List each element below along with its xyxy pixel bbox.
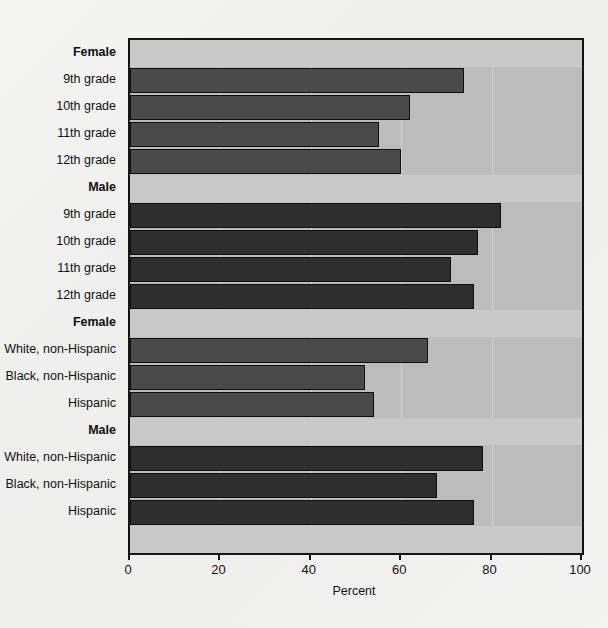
- bar-row: [130, 499, 582, 526]
- bar: [130, 257, 451, 282]
- bar: [130, 68, 464, 93]
- x-tick-60: [399, 553, 401, 560]
- bar: [130, 338, 428, 363]
- bar: [130, 365, 365, 390]
- y-axis-labels: Female9th grade10th grade11th grade12th …: [0, 38, 122, 551]
- y-axis-category-label: 11th grade: [57, 262, 116, 275]
- bar-row: [130, 337, 582, 364]
- x-tick-label-80: 80: [482, 562, 496, 577]
- bar-row: [130, 148, 582, 175]
- bar: [130, 230, 478, 255]
- y-axis-category-label: Black, non-Hispanic: [6, 370, 116, 383]
- y-axis-category-label: Black, non-Hispanic: [6, 478, 116, 491]
- bar: [130, 500, 474, 525]
- bar-row: [130, 256, 582, 283]
- x-tick-label-60: 60: [392, 562, 406, 577]
- y-axis-group-label: Male: [88, 424, 116, 437]
- x-tick-100: [580, 553, 582, 560]
- bar-row: [130, 229, 582, 256]
- bar: [130, 149, 401, 174]
- x-axis-title: Percent: [128, 584, 580, 598]
- bar-row: [130, 67, 582, 94]
- bar-row: [130, 445, 582, 472]
- y-axis-group-label: Female: [73, 316, 116, 329]
- bar-row: [130, 391, 582, 418]
- group-header-band: [130, 418, 582, 445]
- group-header-band: [130, 175, 582, 202]
- y-axis-category-label: 12th grade: [56, 289, 116, 302]
- bar-row: [130, 472, 582, 499]
- y-axis-category-label: Hispanic: [68, 397, 116, 410]
- y-axis-category-label: 10th grade: [56, 235, 116, 248]
- group-header-band: [130, 40, 582, 67]
- y-axis-category-label: 9th grade: [63, 73, 116, 86]
- x-tick-label-100: 100: [569, 562, 591, 577]
- bar: [130, 446, 483, 471]
- y-axis-category-label: 9th grade: [63, 208, 116, 221]
- x-tick-label-40: 40: [302, 562, 316, 577]
- x-tick-0: [128, 553, 130, 560]
- bar: [130, 392, 374, 417]
- y-axis-category-label: 10th grade: [56, 100, 116, 113]
- bottom-spacer-band: [130, 526, 582, 553]
- bar-row: [130, 202, 582, 229]
- y-axis-category-label: 12th grade: [56, 154, 116, 167]
- y-axis-group-label: Male: [88, 181, 116, 194]
- x-tick-20: [218, 553, 220, 560]
- bar-chart-figure: Female9th grade10th grade11th grade12th …: [0, 0, 608, 628]
- y-axis-group-label: Female: [73, 46, 116, 59]
- y-axis-category-label: Hispanic: [68, 505, 116, 518]
- bar: [130, 203, 501, 228]
- bar-row: [130, 283, 582, 310]
- x-tick-80: [490, 553, 492, 560]
- bar-row: [130, 94, 582, 121]
- bar-row: [130, 121, 582, 148]
- x-tick-label-0: 0: [124, 562, 131, 577]
- bar: [130, 122, 379, 147]
- bar: [130, 95, 410, 120]
- bar-row: [130, 364, 582, 391]
- bar: [130, 284, 474, 309]
- x-tick-40: [309, 553, 311, 560]
- x-tick-label-20: 20: [211, 562, 225, 577]
- group-header-band: [130, 310, 582, 337]
- plot-area: [128, 38, 584, 555]
- y-axis-category-label: 11th grade: [57, 127, 116, 140]
- y-axis-category-label: White, non-Hispanic: [4, 451, 116, 464]
- bar: [130, 473, 437, 498]
- y-axis-category-label: White, non-Hispanic: [4, 343, 116, 356]
